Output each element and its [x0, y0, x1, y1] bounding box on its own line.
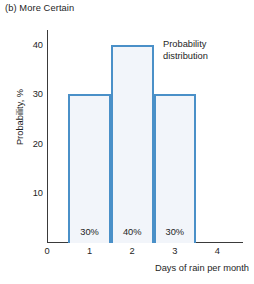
bar-value-label: 30%: [156, 227, 195, 237]
y-tick-label: 40: [33, 40, 43, 50]
annotation-line-2: distribution: [163, 50, 208, 62]
x-tick-label: 4: [215, 246, 220, 256]
y-tick-label: 20: [33, 139, 43, 149]
bar: 30%: [68, 94, 111, 243]
probability-distribution-annotation: Probability distribution: [163, 38, 208, 62]
y-axis-line: [47, 30, 48, 243]
bar: 30%: [154, 94, 197, 243]
annotation-line-1: Probability: [163, 38, 208, 50]
x-tick-label: 1: [87, 246, 92, 256]
x-tick-label: 2: [130, 246, 135, 256]
plot-area: 10203040 01234 30%40%30%: [47, 30, 243, 243]
panel-caption: (b) More Certain: [5, 3, 74, 13]
probability-distribution-chart: (b) More Certain Probability, % 10203040…: [0, 0, 254, 284]
y-axis-title: Probability, %: [15, 62, 25, 172]
bar: 40%: [111, 45, 154, 243]
x-tick-label: 3: [172, 246, 177, 256]
y-tick-label: 30: [33, 89, 43, 99]
bar-value-label: 30%: [70, 227, 109, 237]
x-axis-title: Days of rain per month: [0, 263, 249, 273]
y-tick-label: 10: [33, 188, 43, 198]
bar-value-label: 40%: [113, 227, 152, 237]
x-tick-label: 0: [44, 246, 49, 256]
